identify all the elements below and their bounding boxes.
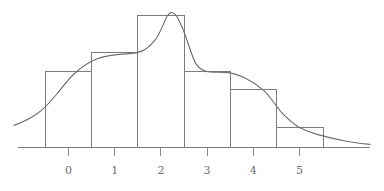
x-tick-label-1: 1 [105, 164, 125, 177]
histogram-bar-1 [92, 53, 138, 148]
histogram-bars [46, 16, 324, 148]
x-tick-label-5: 5 [290, 164, 310, 177]
x-tick-label-2: 2 [151, 164, 171, 177]
density-curve [14, 13, 370, 145]
x-tick-label-0: 0 [59, 164, 79, 177]
x-axis-ticks [69, 148, 300, 156]
histogram-bar-4 [231, 90, 277, 148]
histogram-bar-3 [185, 72, 231, 148]
histogram-bar-2 [138, 16, 185, 148]
x-tick-label-3: 3 [197, 164, 217, 177]
histogram-density-figure: 0 1 2 3 4 5 [0, 0, 384, 191]
histogram-bar-0 [46, 72, 92, 148]
x-tick-label-4: 4 [243, 164, 263, 177]
histogram-bar-5 [277, 128, 324, 148]
plot-canvas [0, 0, 384, 191]
